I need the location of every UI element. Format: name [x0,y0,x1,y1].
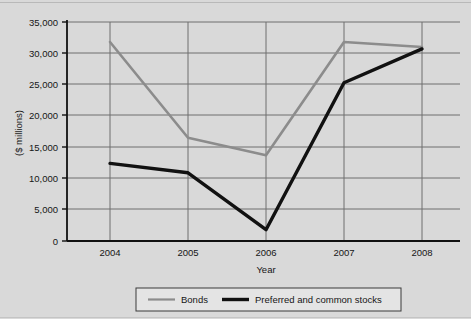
y-tick-label: 10,000 [29,173,58,184]
horizontal-gridlines [67,22,460,209]
chart-figure: 35,000 30,000 25,000 20,000 15,000 10,00… [0,0,471,319]
y-axis-tick-labels: 35,000 30,000 25,000 20,000 15,000 10,00… [29,17,58,247]
y-tick-label: 15,000 [29,142,58,153]
legend-label-bonds: Bonds [181,294,208,305]
chart-legend: Bonds Preferred and common stocks [136,288,401,311]
line-chart-canvas: 35,000 30,000 25,000 20,000 15,000 10,00… [0,0,471,319]
y-axis-title: ($ millions) [13,110,24,156]
x-tick-label: 2006 [255,247,276,258]
y-tick-label: 35,000 [29,17,58,28]
legend-label-preferred-and-common-stocks: Preferred and common stocks [255,294,382,305]
y-tick-label: 20,000 [29,110,58,121]
y-tick-label: 30,000 [29,48,58,59]
x-axis-tick-labels: 2004 2005 2006 2007 2008 [99,247,432,258]
x-tick-label: 2008 [411,247,432,258]
x-tick-label: 2005 [177,247,198,258]
vertical-gridlines [110,22,422,241]
x-tick-label: 2007 [333,247,354,258]
x-axis-title: Year [256,264,275,275]
x-tick-label: 2004 [99,247,120,258]
y-tick-label: 0 [53,236,58,247]
y-tick-label: 5,000 [34,204,58,215]
y-tick-label: 25,000 [29,79,58,90]
